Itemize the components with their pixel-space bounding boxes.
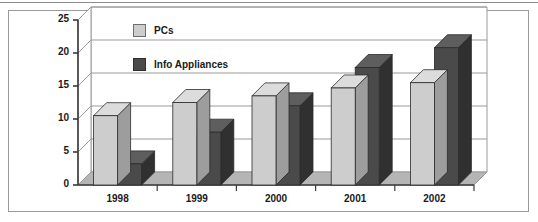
- y-tick-label-10: 10: [43, 112, 69, 123]
- x-tick-label-1998: 1998: [85, 193, 151, 204]
- chart-svg: [0, 0, 538, 222]
- legend-label-info-appliances: Info Appliances: [154, 59, 228, 70]
- legend-swatch-icon-pcs: [133, 24, 146, 37]
- chart-figure: 0 5 10 15 20 25 1998 1999 2000 2001 2002…: [0, 0, 538, 222]
- x-tick-label-1999: 1999: [164, 193, 230, 204]
- bar-chart-plot-area: 0 5 10 15 20 25 1998 1999 2000 2001 2002…: [0, 0, 538, 222]
- legend-item-pcs: PCs: [133, 24, 173, 37]
- x-tick-label-2000: 2000: [243, 193, 309, 204]
- legend-swatch-icon-info-appliances: [133, 58, 146, 71]
- legend-item-info-appliances: Info Appliances: [133, 58, 228, 71]
- y-tick-label-25: 25: [43, 13, 69, 24]
- y-tick-label-15: 15: [43, 79, 69, 90]
- y-tick-label-5: 5: [43, 145, 69, 156]
- x-tick-label-2001: 2001: [322, 193, 388, 204]
- x-tick-label-2002: 2002: [401, 193, 467, 204]
- y-tick-label-20: 20: [43, 46, 69, 57]
- y-tick-label-0: 0: [43, 178, 69, 189]
- legend-label-pcs: PCs: [154, 25, 173, 36]
